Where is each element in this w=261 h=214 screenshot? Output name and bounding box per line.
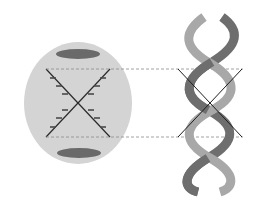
meridional-spot-top (56, 49, 100, 59)
diffraction-pattern (24, 42, 132, 164)
helix-x-lines (178, 69, 242, 137)
strand-dark-overlap-lower (187, 158, 208, 192)
diffraction-diagram (0, 0, 261, 214)
meridional-spot-bottom (57, 148, 101, 158)
